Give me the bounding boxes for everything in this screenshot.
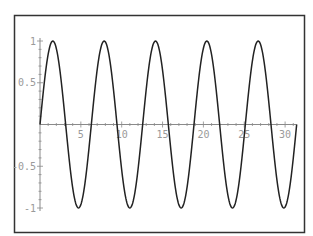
x-tick-label: 5 bbox=[78, 129, 84, 140]
y-tick-label: -1 bbox=[24, 203, 36, 214]
y-tick-label: -0.5 bbox=[12, 161, 36, 172]
y-tick-label: 1 bbox=[30, 36, 36, 47]
x-tick-label: 30 bbox=[279, 129, 291, 140]
plot-canvas: 5101520253010.5-0.5-1 bbox=[0, 0, 313, 236]
sine-plot: 5101520253010.5-0.5-1 bbox=[0, 0, 313, 236]
x-tick-label: 15 bbox=[157, 129, 169, 140]
y-tick-label: 0.5 bbox=[18, 77, 36, 88]
x-tick-label: 20 bbox=[197, 129, 209, 140]
